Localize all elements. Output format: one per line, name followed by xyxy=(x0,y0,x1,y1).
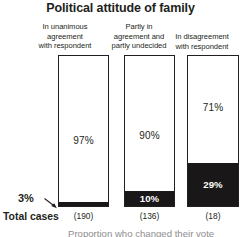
bar-segment-white: 71% xyxy=(188,56,238,163)
bar-partly-agreement: 90% 10% xyxy=(124,55,175,207)
bar-segment-label: 97% xyxy=(73,135,93,146)
column-header-disagreement: In disagreement with respondent xyxy=(163,32,241,51)
column-header-unanimous-agreement: In unanimous agreement with respondent xyxy=(26,22,104,51)
column-header-line: with respondent xyxy=(163,42,241,52)
bar-segment-black: 29% xyxy=(188,163,238,207)
bar-segment-label: 90% xyxy=(139,130,159,141)
column-header-line: with respondent xyxy=(26,41,104,51)
column-header-line: In disagreement xyxy=(163,32,241,42)
callout-3-percent-label: 3% xyxy=(18,192,34,204)
stacked-bar-chart: Political attitude of family In unanimou… xyxy=(0,0,241,237)
bar-segment-black: 10% xyxy=(125,191,174,206)
bar-segment-black: 3% xyxy=(59,202,108,207)
case-count-unanimous-agreement: (190) xyxy=(58,211,109,221)
column-header-line: agreement xyxy=(26,32,104,42)
bar-unanimous-agreement: 97% 3% xyxy=(58,55,109,207)
total-cases-label: Total cases xyxy=(3,211,59,222)
case-count-partly-agreement: (136) xyxy=(124,211,175,221)
bar-disagreement: 71% 29% xyxy=(187,55,239,207)
footnote-caption: Proportion who changed their vote xyxy=(68,228,241,237)
case-count-disagreement: (18) xyxy=(187,211,239,221)
bar-segment-white: 90% xyxy=(125,56,174,191)
chart-title: Political attitude of family xyxy=(0,1,241,15)
column-header-line: Partly in xyxy=(104,22,174,32)
column-header-line: In unanimous xyxy=(26,22,104,32)
bar-segment-label: 29% xyxy=(203,179,223,190)
bar-segment-label: 71% xyxy=(203,102,223,113)
bar-segment-label: 10% xyxy=(140,193,160,204)
bar-segment-white: 97% xyxy=(59,56,108,202)
